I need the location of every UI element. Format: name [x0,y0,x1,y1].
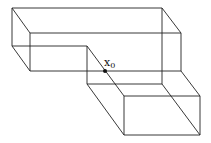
prism-edge [162,8,181,33]
prism-edge [87,84,124,135]
l-shaped-prism-diagram: x0 [0,0,211,143]
prism-edge [181,71,200,96]
point-x0-marker [103,69,107,73]
prism-edge [12,46,30,71]
prism-edge [162,84,200,135]
point-x0-label: x0 [104,56,115,70]
prism-edge [12,8,30,33]
